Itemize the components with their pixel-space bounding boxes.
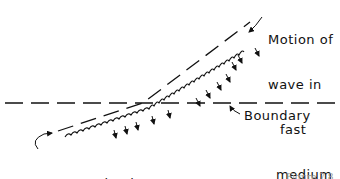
label-line: Less motion in (42, 176, 143, 179)
motion-arrows (114, 48, 259, 138)
label-line: wave in (268, 77, 333, 92)
boundary-label-pointer-arrow (230, 106, 240, 114)
fast-label-pointer-arrow (249, 17, 262, 32)
label-boundary: Boundary (244, 108, 311, 123)
label-line: Motion of (268, 32, 333, 47)
label-line: fast (268, 122, 333, 137)
wavefront-path-line (58, 22, 250, 131)
figure-caption: Figure 7.8 (286, 172, 333, 179)
label-fast-medium: Motion of wave in fast medium (268, 2, 333, 179)
label-slow-medium: Less motion in slow medium (42, 146, 143, 179)
